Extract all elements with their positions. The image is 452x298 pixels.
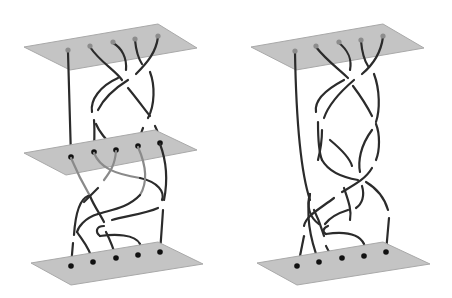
left-top-plate <box>24 24 197 70</box>
strand <box>92 78 118 112</box>
right-braid-panel <box>251 24 430 285</box>
strand <box>77 214 98 232</box>
strand <box>97 226 104 236</box>
endpoint <box>155 33 160 38</box>
endpoint <box>380 33 385 38</box>
strand <box>374 74 379 122</box>
endpoint <box>113 255 119 261</box>
endpoint <box>383 249 389 255</box>
strand <box>295 52 310 200</box>
strand <box>366 182 388 210</box>
strand <box>324 80 354 118</box>
strand <box>308 194 319 262</box>
braid-figure <box>0 0 452 298</box>
strand <box>326 233 364 244</box>
right-top-plate <box>251 24 424 70</box>
endpoint <box>157 249 163 255</box>
right-strands <box>295 37 389 266</box>
strand <box>325 210 348 224</box>
endpoint <box>336 39 341 44</box>
strand <box>74 196 88 235</box>
left-braid-panel <box>24 24 203 285</box>
endpoint <box>135 252 141 258</box>
strand <box>112 208 158 220</box>
endpoint <box>110 39 115 44</box>
endpoint <box>132 36 137 41</box>
strand <box>98 80 128 110</box>
right-bottom-plate <box>257 242 430 285</box>
strand <box>356 186 363 208</box>
endpoint <box>339 255 345 261</box>
strand <box>344 188 351 220</box>
strand <box>90 196 104 222</box>
endpoint <box>65 47 70 52</box>
strand <box>359 130 372 172</box>
endpoint <box>358 37 363 42</box>
endpoint <box>68 263 74 269</box>
endpoint <box>294 263 300 269</box>
strand <box>128 88 150 116</box>
strand <box>330 140 352 166</box>
endpoint <box>316 259 322 265</box>
strand <box>322 160 358 180</box>
endpoint <box>292 48 297 53</box>
strand <box>353 86 372 116</box>
strand <box>98 195 140 214</box>
strand <box>148 72 154 118</box>
left-bottom-plate <box>31 242 203 285</box>
endpoint <box>361 253 367 259</box>
strand <box>100 235 140 244</box>
endpoint <box>313 43 318 48</box>
endpoint <box>87 43 92 48</box>
endpoint <box>90 259 96 265</box>
strand <box>376 124 379 160</box>
